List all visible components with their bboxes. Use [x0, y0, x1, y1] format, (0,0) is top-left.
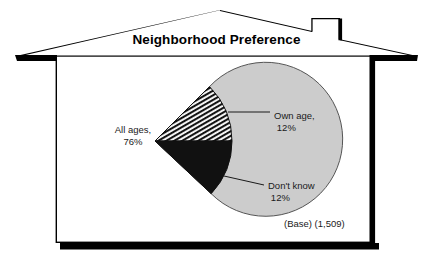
right-eave-bar [374, 55, 418, 61]
pie-label-all-ages-name: All ages, [96, 124, 170, 136]
floor-shadow-bar [60, 243, 379, 250]
pie-label-dont-know-name: Don't know [268, 180, 315, 192]
pie-label-own-age-value: 12% [274, 122, 315, 134]
base-note: (Base) (1,509) [284, 218, 345, 229]
pie-label-own-age-name: Own age, [274, 110, 315, 122]
pie-label-dont-know: Don't know 12% [268, 180, 315, 204]
wall-body-top [56, 56, 375, 57]
wall-right-thick [370, 55, 376, 243]
floor-line [56, 242, 375, 243]
roof-right-slope-upper [220, 10, 312, 32]
pie-label-dont-know-value: 12% [268, 192, 315, 204]
pie-label-all-ages-value: 76% [96, 136, 170, 148]
figure-canvas: Neighborhood Preference All ages, 76% Ow… [0, 0, 433, 259]
chart-title: Neighborhood Preference [0, 32, 433, 47]
pie-label-all-ages: All ages, 76% [96, 124, 170, 148]
pie-label-own-age: Own age, 12% [274, 110, 315, 134]
left-eave-bar [15, 55, 57, 61]
wall-left [56, 56, 57, 243]
